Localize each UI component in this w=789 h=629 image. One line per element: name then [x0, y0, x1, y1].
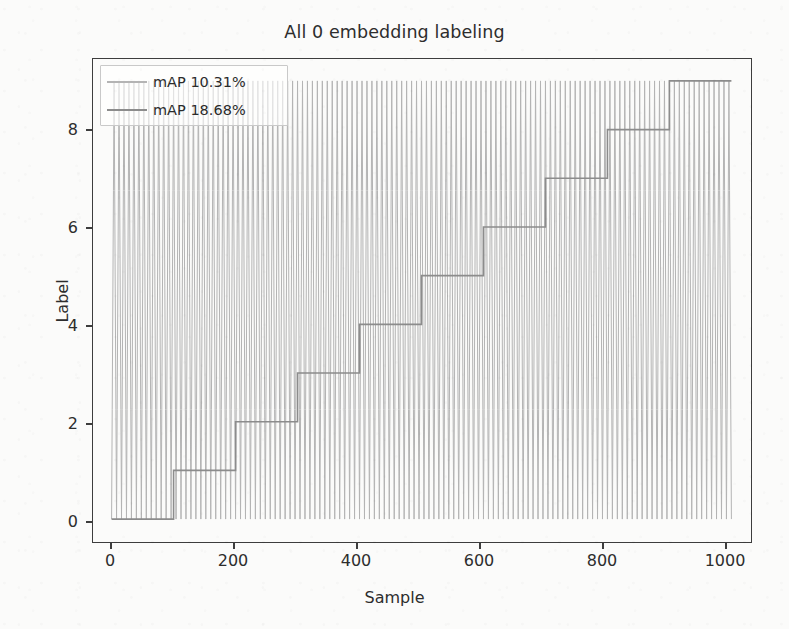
x-tick-label-0: 0: [105, 551, 115, 570]
x-tick-label-1000: 1000: [705, 551, 746, 570]
y-tick-mark: [86, 521, 92, 523]
chart-title: All 0 embedding labeling: [0, 22, 789, 42]
plot-area: Label: [92, 58, 752, 543]
legend-label-0: mAP 10.31%: [153, 74, 246, 90]
y-tick-label-8: 8: [68, 120, 78, 139]
y-tick-mark: [86, 129, 92, 131]
legend: mAP 10.31% mAP 18.68%: [100, 65, 288, 126]
x-axis-label: Sample: [0, 588, 789, 607]
x-tick-label-600: 600: [464, 551, 495, 570]
legend-entry-0: mAP 10.31%: [107, 68, 246, 96]
y-tick-mark: [86, 227, 92, 229]
chart-figure: All 0 embedding labeling Label 0 200 400…: [0, 0, 789, 629]
y-tick-mark: [86, 325, 92, 327]
x-tick-label-800: 800: [587, 551, 618, 570]
y-tick-label-2: 2: [68, 414, 78, 433]
plot-canvas: [93, 59, 750, 541]
y-tick-mark: [86, 423, 92, 425]
x-tick-mark: [110, 543, 112, 549]
y-tick-label-4: 4: [68, 316, 78, 335]
x-tick-mark: [602, 543, 604, 549]
legend-swatch-icon: [107, 109, 147, 111]
y-tick-label-0: 0: [68, 512, 78, 531]
x-tick-mark: [356, 543, 358, 549]
x-tick-mark: [233, 543, 235, 549]
x-tick-label-400: 400: [341, 551, 372, 570]
x-tick-label-200: 200: [218, 551, 249, 570]
legend-swatch-icon: [107, 81, 147, 83]
x-tick-mark: [725, 543, 727, 549]
y-tick-label-6: 6: [68, 218, 78, 237]
legend-entry-1: mAP 18.68%: [107, 96, 246, 124]
x-tick-mark: [479, 543, 481, 549]
legend-label-1: mAP 18.68%: [153, 102, 246, 118]
